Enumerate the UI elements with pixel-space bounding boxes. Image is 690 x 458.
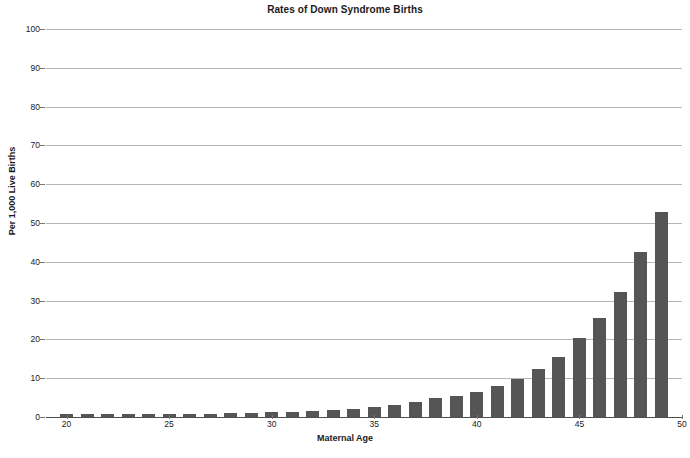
bar-age-28 <box>224 413 237 417</box>
y-tick-mark-100 <box>40 29 45 30</box>
x-tick-mark-30 <box>272 415 273 419</box>
bar-age-22 <box>101 414 114 417</box>
y-tick-label-10: 10 <box>10 374 40 382</box>
x-tick-mark-35 <box>374 415 375 419</box>
bar-age-24 <box>142 414 155 417</box>
y-tick-label-20: 20 <box>10 335 40 343</box>
bar-age-38 <box>429 398 442 417</box>
y-tick-mark-50 <box>40 223 45 224</box>
x-axis-title: Maternal Age <box>0 433 690 443</box>
x-tick-label-20: 20 <box>47 419 87 429</box>
y-tick-mark-10 <box>40 378 45 379</box>
y-tick-label-80: 80 <box>10 103 40 111</box>
x-tick-mark-20 <box>67 415 68 419</box>
y-tick-mark-70 <box>40 145 45 146</box>
bar-age-31 <box>286 412 299 417</box>
bar-age-39 <box>450 396 463 417</box>
bar-age-45 <box>573 338 586 417</box>
bar-age-26 <box>183 414 196 417</box>
y-tick-mark-30 <box>40 301 45 302</box>
bar-age-41 <box>491 386 504 417</box>
bar-series <box>46 29 682 417</box>
bar-age-33 <box>327 410 340 417</box>
bar-age-32 <box>306 411 319 417</box>
bar-age-42 <box>511 379 524 417</box>
bar-age-49 <box>655 212 668 417</box>
x-tick-mark-50 <box>682 415 683 419</box>
chart-title: Rates of Down Syndrome Births <box>0 4 690 15</box>
x-tick-label-50: 50 <box>662 419 690 429</box>
source-caption <box>46 450 646 458</box>
x-tick-mark-45 <box>579 415 580 419</box>
bar-age-48 <box>634 252 647 417</box>
bar-age-44 <box>552 357 565 417</box>
x-tick-label-45: 45 <box>559 419 599 429</box>
bar-age-40 <box>470 392 483 417</box>
x-tick-mark-40 <box>477 415 478 419</box>
bar-age-27 <box>204 414 217 417</box>
y-tick-label-30: 30 <box>10 297 40 305</box>
bar-age-29 <box>245 413 258 417</box>
y-tick-mark-0 <box>40 417 45 418</box>
bar-age-37 <box>409 402 422 417</box>
bar-age-34 <box>347 409 360 417</box>
y-tick-label-100: 100 <box>10 25 40 33</box>
x-tick-label-40: 40 <box>457 419 497 429</box>
bar-age-47 <box>614 292 627 417</box>
y-tick-mark-80 <box>40 107 45 108</box>
x-tick-label-35: 35 <box>354 419 394 429</box>
x-tick-mark-25 <box>169 415 170 419</box>
bar-age-21 <box>81 414 94 417</box>
bar-age-23 <box>122 414 135 417</box>
chart-container: Rates of Down Syndrome Births 0102030405… <box>0 0 690 458</box>
y-tick-mark-40 <box>40 262 45 263</box>
x-tick-label-25: 25 <box>149 419 189 429</box>
y-tick-mark-20 <box>40 339 45 340</box>
bar-age-36 <box>388 405 401 417</box>
y-tick-label-90: 90 <box>10 64 40 72</box>
y-axis-title: Per 1,000 Live Births <box>7 111 17 271</box>
y-tick-mark-60 <box>40 184 45 185</box>
x-tick-label-30: 30 <box>252 419 292 429</box>
bar-age-46 <box>593 318 606 417</box>
y-tick-mark-90 <box>40 68 45 69</box>
bar-age-43 <box>532 369 545 417</box>
x-axis-line <box>46 417 682 418</box>
y-axis-tick-labels: 0102030405060708090100 <box>0 0 40 458</box>
